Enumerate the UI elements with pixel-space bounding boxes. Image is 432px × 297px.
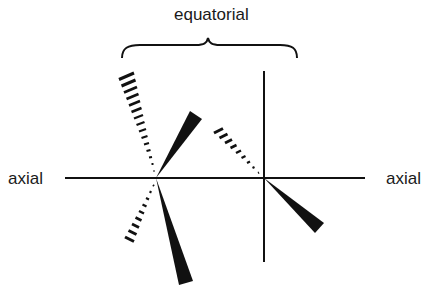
axial-label-right: axial bbox=[386, 170, 421, 187]
hash-bond-down-left bbox=[125, 185, 154, 242]
wedge-bond-down-right bbox=[264, 178, 324, 233]
stereo-diagram bbox=[0, 0, 432, 297]
hash-bond-up-left-right-center bbox=[214, 129, 259, 174]
wedge-bond-down bbox=[156, 178, 193, 285]
equatorial-brace bbox=[122, 38, 297, 58]
wedge-bond-up-right bbox=[156, 111, 202, 178]
equatorial-label: equatorial bbox=[174, 6, 249, 23]
axial-label-left: axial bbox=[8, 170, 43, 187]
hash-bond-up-left bbox=[119, 73, 155, 171]
